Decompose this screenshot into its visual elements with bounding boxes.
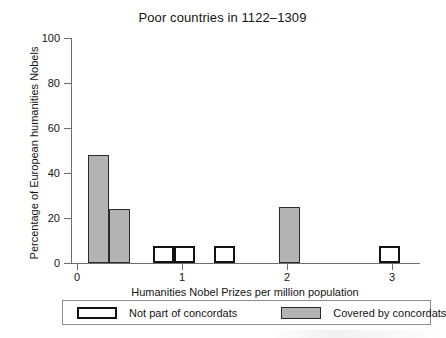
scan-artifact: [0, 330, 445, 338]
legend-swatch-hollow-icon: [77, 307, 117, 319]
legend-item-covered-by-concordats: Covered by concordats: [281, 301, 446, 324]
bar: [109, 209, 130, 263]
x-axis-title: Humanities Nobel Prizes per million popu…: [60, 286, 430, 298]
bar: [279, 207, 300, 263]
x-axis-line: [70, 263, 420, 264]
bar: [153, 246, 174, 263]
legend-swatch-filled-icon: [281, 307, 321, 319]
x-axis-tick-label: 1: [167, 271, 197, 283]
bar: [174, 246, 195, 263]
y-axis-tick-label: 20: [20, 212, 60, 224]
y-axis-tick-label: 100: [20, 32, 60, 44]
chart-title: Poor countries in 1122–1309: [0, 10, 445, 25]
y-axis-tick-label: 80: [20, 77, 60, 89]
x-axis-tick-label: 0: [62, 271, 92, 283]
legend-label: Not part of concordats: [129, 307, 237, 319]
y-axis-tick: [64, 218, 71, 219]
y-axis-title: Percentage of European humanities Nobels: [28, 38, 40, 268]
y-axis-tick: [64, 38, 71, 39]
y-axis-tick: [64, 173, 71, 174]
legend-item-not-part-of-concordats: Not part of concordats: [77, 301, 237, 324]
y-axis-tick-label: 0: [20, 257, 60, 269]
x-axis-tick: [77, 264, 78, 270]
x-axis-tick-label: 3: [377, 271, 407, 283]
x-axis-tick: [287, 264, 288, 270]
plot-area: [72, 38, 417, 263]
chart-legend: Not part of concordats Covered by concor…: [62, 300, 431, 325]
legend-label: Covered by concordats: [333, 307, 446, 319]
bar: [379, 246, 400, 263]
y-axis-tick-label: 60: [20, 122, 60, 134]
y-axis-tick-label: 40: [20, 167, 60, 179]
bar: [88, 155, 109, 263]
x-axis-tick: [392, 264, 393, 270]
y-axis-tick: [64, 83, 71, 84]
x-axis-tick-label: 2: [272, 271, 302, 283]
x-axis-tick: [182, 264, 183, 270]
bar: [214, 246, 235, 263]
y-axis-tick: [64, 128, 71, 129]
